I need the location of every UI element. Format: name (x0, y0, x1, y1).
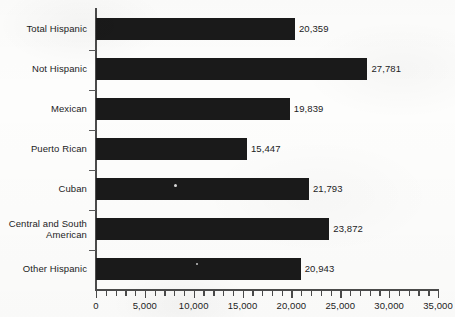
category-label: Not Hispanic (0, 63, 87, 75)
bar (96, 58, 367, 80)
x-axis-minor-tick (135, 291, 136, 296)
bar-value-label: 27,781 (371, 63, 401, 74)
bar-row: Total Hispanic20,359 (0, 8, 455, 48)
bar-row: Puerto Rican15,447 (0, 128, 455, 168)
bar-value-label: 20,359 (299, 23, 329, 34)
x-axis-minor-tick (262, 291, 263, 296)
x-axis-tick-label: 30,000 (374, 300, 404, 311)
x-axis-minor-tick (379, 291, 380, 296)
category-label-line: Mexican (0, 103, 87, 115)
scan-speck (174, 184, 177, 187)
scan-speck (196, 263, 198, 265)
x-axis-minor-tick (321, 291, 322, 296)
bar-value-label: 23,872 (333, 223, 363, 234)
x-axis-minor-tick (125, 291, 126, 296)
bar-value-label: 21,793 (313, 183, 343, 194)
x-axis-minor-tick (116, 291, 117, 296)
category-label: Total Hispanic (0, 23, 87, 35)
x-axis-tick-label: 5,000 (133, 300, 157, 311)
y-axis-tick (89, 250, 96, 251)
bar-value-label: 15,447 (251, 143, 281, 154)
y-axis-tick (89, 130, 96, 131)
x-axis-minor-tick (350, 291, 351, 296)
bar (96, 138, 247, 160)
bar-row: Central and SouthAmerican23,872 (0, 208, 455, 248)
y-axis-tick (89, 90, 96, 91)
x-axis-major-tick (145, 291, 146, 298)
bar (96, 218, 329, 240)
x-axis-minor-tick (223, 291, 224, 296)
y-axis-tick (89, 50, 96, 51)
x-axis-tick-label: 10,000 (179, 300, 209, 311)
x-axis-minor-tick (311, 291, 312, 296)
bar (96, 98, 290, 120)
x-axis-minor-tick (272, 291, 273, 296)
bar (96, 258, 301, 280)
x-axis-minor-tick (282, 291, 283, 296)
x-axis-major-tick (243, 291, 244, 298)
x-axis-line (95, 289, 439, 291)
x-axis-minor-tick (213, 291, 214, 296)
x-axis-minor-tick (301, 291, 302, 296)
x-axis-minor-tick (155, 291, 156, 296)
x-axis-tick-label: 15,000 (228, 300, 258, 311)
x-axis-tick-label: 25,000 (325, 300, 355, 311)
x-axis-tick-label: 35,000 (423, 300, 453, 311)
category-label-line: American (0, 229, 87, 241)
x-axis-minor-tick (418, 291, 419, 296)
x-axis-minor-tick (331, 291, 332, 296)
plot-area: Total Hispanic20,359Not Hispanic27,781Me… (0, 0, 455, 317)
x-axis-minor-tick (409, 291, 410, 296)
x-axis-minor-tick (184, 291, 185, 296)
bar (96, 178, 309, 200)
x-axis-major-tick (291, 291, 292, 298)
category-label: Cuban (0, 183, 87, 195)
x-axis-minor-tick (164, 291, 165, 296)
category-label: Mexican (0, 103, 87, 115)
category-label: Central and SouthAmerican (0, 218, 87, 241)
x-axis-tick-label: 0 (93, 300, 98, 311)
y-axis-tick (89, 210, 96, 211)
x-axis-major-tick (96, 291, 97, 298)
x-axis-tick-label: 20,000 (277, 300, 307, 311)
x-axis-minor-tick (370, 291, 371, 296)
category-label-line: Central and South (0, 218, 87, 230)
x-axis-major-tick (438, 291, 439, 298)
category-label: Other Hispanic (0, 263, 87, 275)
category-label-line: Other Hispanic (0, 263, 87, 275)
x-axis-minor-tick (203, 291, 204, 296)
bar-row: Not Hispanic27,781 (0, 48, 455, 88)
x-axis-minor-tick (428, 291, 429, 296)
x-axis-major-tick (194, 291, 195, 298)
y-axis-tick (89, 170, 96, 171)
bar-value-label: 20,943 (305, 263, 335, 274)
x-axis-minor-tick (233, 291, 234, 296)
x-axis-major-tick (389, 291, 390, 298)
bar-value-label: 19,839 (294, 103, 324, 114)
x-axis-minor-tick (174, 291, 175, 296)
x-axis-minor-tick (399, 291, 400, 296)
category-label: Puerto Rican (0, 143, 87, 155)
bar-row: Other Hispanic20,943 (0, 248, 455, 288)
x-axis-minor-tick (252, 291, 253, 296)
x-axis-major-tick (340, 291, 341, 298)
bar (96, 18, 295, 40)
bar-row: Cuban21,793 (0, 168, 455, 208)
category-label-line: Puerto Rican (0, 143, 87, 155)
bar-chart: Total Hispanic20,359Not Hispanic27,781Me… (0, 0, 455, 317)
category-label-line: Not Hispanic (0, 63, 87, 75)
x-axis-minor-tick (106, 291, 107, 296)
category-label-line: Cuban (0, 183, 87, 195)
bar-row: Mexican19,839 (0, 88, 455, 128)
x-axis-minor-tick (360, 291, 361, 296)
category-label-line: Total Hispanic (0, 23, 87, 35)
